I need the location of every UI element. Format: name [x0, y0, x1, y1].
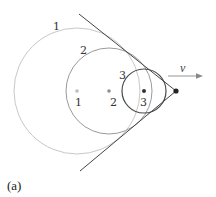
emission-point-2	[107, 89, 111, 93]
shock-cone-line-top	[79, 14, 176, 91]
center-label-2: 2	[110, 96, 117, 109]
circle-label-2: 2	[80, 44, 87, 57]
emission-point-3	[142, 89, 146, 93]
circle-label-3: 3	[119, 69, 126, 82]
center-label-3: 3	[140, 96, 147, 109]
velocity-arrow-head-icon	[196, 73, 203, 78]
emission-point-1	[75, 89, 79, 93]
source-point	[173, 88, 178, 93]
circle-label-1: 1	[53, 20, 60, 33]
velocity-label: v	[180, 61, 186, 75]
center-label-1: 1	[75, 96, 82, 109]
shock-wave-diagram: v 1 2 3 1 2 3 (a)	[0, 0, 216, 197]
figure-caption: (a)	[7, 178, 21, 193]
